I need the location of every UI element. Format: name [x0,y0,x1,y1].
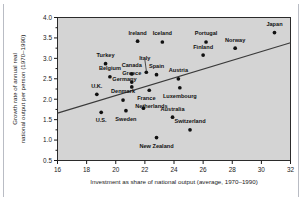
data-point-label: Finland [193,44,213,50]
data-point[interactable] [147,88,151,92]
y-axis-title-line-2: national output per person (1970–1990) [19,35,26,144]
data-point-label: Belgium [99,65,121,71]
data-point-label: Spain [149,63,165,69]
data-point-label: Switzerland [174,118,206,124]
data-point-label: Turkey [97,52,116,58]
data-point-label: Austria [169,67,189,73]
data-point[interactable] [95,92,99,96]
y-tick-label: 0.5 [43,157,52,164]
data-point[interactable] [155,73,159,77]
scatter-plot: 0.51.01.52.02.53.03.54.01618202224262830… [0,0,302,201]
x-tick-label: 32 [287,166,295,173]
data-point-label: France [137,95,155,101]
data-point-label: Sweden [115,116,137,122]
x-tick-label: 28 [229,166,237,173]
y-tick-label: 3.0 [43,55,52,62]
x-axis-title: Investment as share of national output (… [90,178,258,185]
data-point[interactable] [99,110,103,114]
data-point[interactable] [273,31,277,35]
x-tick-label: 26 [200,166,208,173]
y-tick-label: 2.5 [43,75,52,82]
data-point-label: Australia [161,106,186,112]
data-point-label: Italy [139,55,151,61]
data-point-label: Ireland [128,30,147,36]
x-tick-label: 16 [54,166,62,173]
data-point-label: Portugal [195,30,218,36]
data-point[interactable] [201,53,205,57]
data-point-label: Germany [112,76,137,82]
y-tick-label: 1.0 [43,136,52,143]
y-axis-title-line-1: Growth rate of annual real [11,53,18,125]
data-point[interactable] [178,86,182,90]
data-point-label: Iceland [153,30,173,36]
data-point-label: U.K. [91,83,103,89]
data-point-label: Norway [225,37,246,43]
data-point[interactable] [161,40,165,44]
data-point-label: Canada [122,62,143,68]
data-point[interactable] [124,109,128,113]
data-point[interactable] [177,77,181,81]
y-tick-label: 2.0 [43,96,52,103]
chart-figure: 0.51.01.52.02.53.03.54.01618202224262830… [0,0,302,201]
data-point-label: Denmark [111,88,136,94]
data-point[interactable] [233,46,237,50]
data-point-label: U.S. [96,117,107,123]
data-point-label: Luxembourg [163,93,197,99]
x-tick-label: 22 [141,166,149,173]
y-tick-label: 4.0 [43,14,52,21]
y-tick-label: 3.5 [43,34,52,41]
data-point[interactable] [136,39,140,43]
x-tick-label: 20 [112,166,120,173]
data-point-label: Japan [266,21,283,27]
data-point[interactable] [121,98,125,102]
x-tick-label: 30 [258,166,266,173]
x-tick-label: 24 [170,166,178,173]
data-point[interactable] [188,128,192,132]
data-point[interactable] [155,136,159,140]
y-tick-label: 1.5 [43,116,52,123]
x-tick-label: 18 [83,166,91,173]
data-point[interactable] [144,70,148,74]
data-point-label: New Zealand [139,143,174,149]
plot-area-background [58,18,291,161]
data-point[interactable] [108,75,112,79]
